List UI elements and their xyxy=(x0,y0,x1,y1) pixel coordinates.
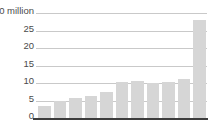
bar xyxy=(131,81,144,118)
bar xyxy=(100,92,113,118)
bar xyxy=(162,82,175,118)
bar xyxy=(85,96,98,118)
bar xyxy=(116,82,129,118)
x-axis-baseline xyxy=(33,118,208,120)
bar xyxy=(193,20,206,118)
bar xyxy=(69,98,82,118)
bar-chart: $30 million 25 20 15 10 5 0 xyxy=(0,0,210,132)
y-tick-label-10: 10 xyxy=(23,76,34,86)
y-tick-label-5: 5 xyxy=(29,94,34,104)
bar-series xyxy=(38,13,206,118)
y-tick-label-15: 15 xyxy=(23,59,34,69)
bar xyxy=(147,83,160,118)
y-tick-label-20: 20 xyxy=(23,41,34,51)
bar xyxy=(178,79,191,118)
y-tick-label-30: $30 million xyxy=(0,6,34,16)
bar xyxy=(54,101,67,119)
y-tick-label-25: 25 xyxy=(23,24,34,34)
bar xyxy=(38,106,51,118)
